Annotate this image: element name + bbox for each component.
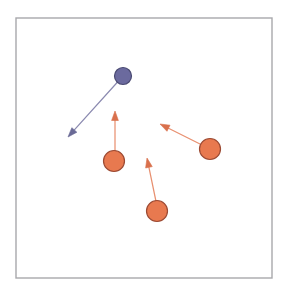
agent-circle-agent-2[interactable]: [104, 151, 125, 172]
agent-circle-agent-1[interactable]: [115, 68, 132, 85]
agent-circle-agent-3[interactable]: [147, 201, 168, 222]
scene-root: [0, 0, 285, 290]
agent-circle-agent-4[interactable]: [200, 139, 221, 160]
figure-background: [0, 0, 285, 290]
agent-velocity-diagram: [0, 0, 285, 290]
